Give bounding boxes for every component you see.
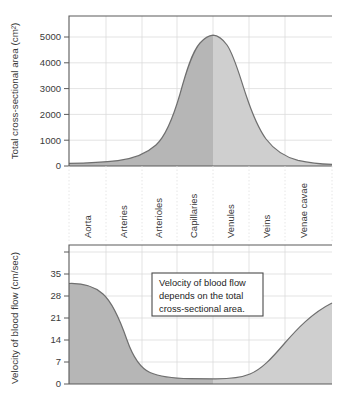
callout-line-1: Velocity of blood flow [159,278,246,288]
category-label-capillaries: Capillaries [188,193,199,238]
top-ytick-label-5000: 5000 [40,31,61,42]
callout-line-2: depends on the total [159,291,243,301]
category-label-venules: Venules [225,204,236,238]
callout-box: Velocity of blood flow depends on the to… [152,273,263,316]
bottom-ytick-label-21: 21 [50,312,61,323]
bottom-y-axis-title: Velocity of blood flow (cm/sec) [9,252,20,384]
top-ytick-label-2000: 2000 [40,109,61,120]
category-label-veins: Veins [261,215,272,238]
top-ytick-label-0: 0 [56,160,61,171]
category-label-venae-cavae: Venae cavae [298,183,309,238]
top-ytick-label-1000: 1000 [40,135,61,146]
category-label-aorta: Aorta [82,215,93,238]
bottom-ytick-label-7: 7 [56,356,61,367]
top-ytick-label-3000: 3000 [40,83,61,94]
bottom-ytick-label-35: 35 [50,268,61,279]
bottom-ytick-label-0: 0 [56,378,61,389]
top-y-axis-title: Total cross-sectional area (cm²) [9,23,20,160]
top-ytick-label-4000: 4000 [40,57,61,68]
blood-flow-figure: 0 1000 2000 3000 4000 5000 Total cross-s… [0,0,345,412]
callout-line-3: cross-sectional area. [159,304,245,314]
category-label-arterioles: Arterioles [153,198,164,238]
category-label-arteries: Arteries [118,205,129,238]
bottom-ytick-label-28: 28 [50,290,61,301]
bottom-ytick-label-14: 14 [50,334,61,345]
